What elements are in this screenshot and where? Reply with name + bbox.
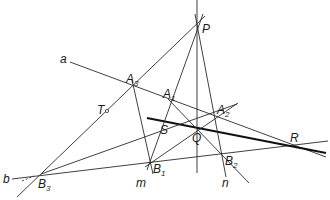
label-b: b: [3, 172, 10, 186]
line-b: [12, 141, 328, 179]
line-p-b3: [17, 16, 205, 197]
line-a1-b2: [168, 99, 249, 183]
line-n: [195, 14, 226, 177]
label-a2: A2: [216, 103, 230, 119]
point-t-marker: [105, 109, 108, 112]
label-q: Q: [192, 131, 201, 145]
label-p: P: [202, 22, 210, 36]
label-n: n: [222, 176, 229, 190]
label-a: a: [60, 52, 67, 66]
line-m: [132, 80, 153, 174]
label-m: m: [136, 176, 146, 190]
label-t: T: [97, 103, 106, 117]
label-b2: B2: [225, 154, 238, 170]
geometry-diagram: P a A3 A1 A2 T S Q R b B3 B1 B2 m n: [0, 0, 330, 200]
label-a3: A3: [125, 72, 139, 88]
line-bold-sqr: [147, 118, 326, 153]
label-r: R: [290, 131, 299, 145]
label-b1: B1: [153, 162, 165, 178]
label-s: S: [160, 123, 168, 137]
label-a1: A1: [162, 87, 175, 103]
label-b3: B3: [38, 177, 51, 193]
